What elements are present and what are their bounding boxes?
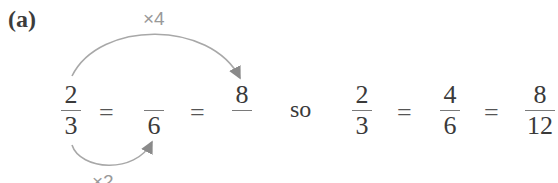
fraction-two-thirds: 2 3 bbox=[342, 82, 382, 139]
equals-sign: = bbox=[190, 98, 205, 128]
numerator: 4 bbox=[430, 82, 470, 108]
numerator: 8 bbox=[520, 82, 558, 108]
times-two-label: ×2 bbox=[92, 171, 114, 183]
denominator: 6 bbox=[430, 113, 470, 139]
part-label: (a) bbox=[8, 6, 36, 33]
denominator: 12 bbox=[520, 113, 558, 139]
bottom-curved-arrow bbox=[72, 142, 152, 165]
numerator: 2 bbox=[51, 82, 91, 108]
fraction-blank-over-six: 6 bbox=[134, 82, 174, 139]
numerator: 8 bbox=[222, 82, 262, 108]
fraction-two-thirds: 2 3 bbox=[51, 82, 91, 139]
equals-sign: = bbox=[397, 98, 412, 128]
fraction-bar bbox=[232, 110, 252, 111]
denominator: 3 bbox=[342, 113, 382, 139]
so-connector: so bbox=[290, 96, 311, 123]
denominator: 3 bbox=[51, 113, 91, 139]
times-four-label: ×4 bbox=[143, 8, 165, 30]
denominator-blank bbox=[222, 113, 262, 139]
fraction-four-sixths: 4 6 bbox=[430, 82, 470, 139]
denominator: 6 bbox=[134, 113, 174, 139]
equals-sign: = bbox=[484, 98, 499, 128]
equals-sign: = bbox=[99, 98, 114, 128]
top-curved-arrow bbox=[72, 34, 240, 78]
numerator-blank bbox=[134, 82, 174, 108]
fraction-eight-twelfths: 8 12 bbox=[520, 82, 558, 139]
numerator: 2 bbox=[342, 82, 382, 108]
fraction-eight-over-blank: 8 bbox=[222, 82, 262, 139]
